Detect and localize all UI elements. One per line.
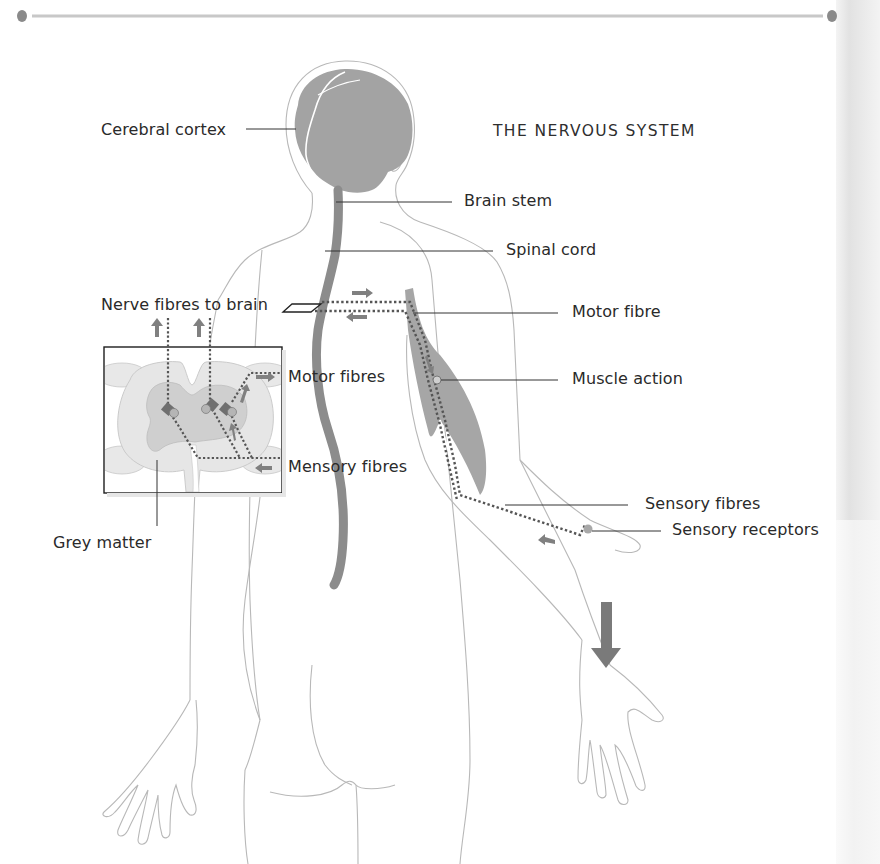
- label-motor-fibres: Motor fibres: [288, 369, 385, 385]
- diagram-title: THE NERVOUS SYSTEM: [493, 124, 696, 140]
- label-sensory-receptors: Sensory receptors: [672, 522, 819, 538]
- label-muscle-action: Muscle action: [572, 371, 683, 387]
- top-rule: [17, 10, 837, 22]
- label-motor-fibre: Motor fibre: [572, 304, 661, 320]
- label-cerebral-cortex: Cerebral cortex: [101, 122, 226, 138]
- label-mensory-fibres: Mensory fibres: [288, 459, 407, 475]
- brain: [295, 69, 413, 193]
- label-sensory-fibres: Sensory fibres: [645, 496, 760, 512]
- label-grey-matter: Grey matter: [53, 535, 151, 551]
- label-nerve-fibres-to-brain: Nerve fibres to brain: [101, 297, 268, 313]
- down-arrow-icon: [591, 602, 621, 668]
- sensory-receptor-point: [584, 525, 593, 534]
- spinal-cord: [316, 190, 343, 585]
- label-spinal-cord: Spinal cord: [506, 242, 596, 258]
- label-brain-stem: Brain stem: [464, 193, 552, 209]
- cross-section-inset: [97, 305, 290, 497]
- muscle-action-point: [433, 376, 441, 384]
